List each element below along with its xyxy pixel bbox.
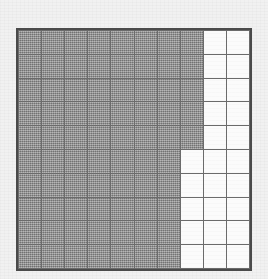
grid-cell	[42, 55, 64, 78]
grid-cell	[181, 150, 203, 173]
grid-cell	[227, 126, 249, 149]
grid-cell	[158, 174, 180, 197]
grid-cell	[111, 198, 133, 221]
grid-cell	[158, 221, 180, 244]
grid-cell	[19, 198, 41, 221]
grid-cell	[204, 150, 226, 173]
grid-cell	[204, 126, 226, 149]
grid-cell	[88, 221, 110, 244]
grid-cell	[204, 221, 226, 244]
grid-cell	[65, 221, 87, 244]
grid-cell	[158, 150, 180, 173]
grid-cell	[181, 174, 203, 197]
grid-cell	[42, 150, 64, 173]
fraction-grid-figure	[16, 28, 252, 271]
grid-cell	[204, 174, 226, 197]
grid-cell	[42, 126, 64, 149]
grid-cell	[181, 55, 203, 78]
grid-cell	[19, 126, 41, 149]
grid-cell	[88, 102, 110, 125]
grid-cell	[135, 198, 157, 221]
grid-cell	[42, 102, 64, 125]
grid-cell	[158, 55, 180, 78]
grid-cell	[135, 102, 157, 125]
grid-cell	[42, 221, 64, 244]
grid-cell	[158, 31, 180, 54]
grid-cell	[227, 79, 249, 102]
grid-cell	[42, 245, 64, 268]
grid-cell	[65, 102, 87, 125]
grid-cell	[181, 102, 203, 125]
grid-cell	[65, 31, 87, 54]
grid-cell	[181, 79, 203, 102]
grid-cell	[204, 31, 226, 54]
grid-cell	[19, 221, 41, 244]
grid-cell	[65, 55, 87, 78]
grid-cell	[111, 126, 133, 149]
grid-cell	[88, 174, 110, 197]
grid-cell	[111, 102, 133, 125]
grid-cell	[111, 31, 133, 54]
grid-cell	[135, 55, 157, 78]
grid-cell	[135, 150, 157, 173]
grid-cell	[111, 79, 133, 102]
grid-cell	[204, 79, 226, 102]
grid-cell	[158, 198, 180, 221]
grid-cell	[65, 198, 87, 221]
grid-cell	[135, 245, 157, 268]
grid-cell	[135, 126, 157, 149]
grid-cell	[227, 198, 249, 221]
grid-cell	[135, 174, 157, 197]
grid-cell	[65, 174, 87, 197]
grid-cell	[65, 126, 87, 149]
grid-cell	[88, 126, 110, 149]
grid-cell	[181, 31, 203, 54]
grid-cell	[65, 150, 87, 173]
fraction-grid	[16, 28, 252, 271]
grid-cell	[227, 245, 249, 268]
grid-cell	[204, 245, 226, 268]
grid-cell	[227, 221, 249, 244]
grid-cell	[158, 245, 180, 268]
grid-cell	[135, 31, 157, 54]
grid-cell	[227, 150, 249, 173]
grid-cell	[227, 174, 249, 197]
grid-cell	[42, 198, 64, 221]
grid-cell	[19, 150, 41, 173]
grid-cell	[19, 55, 41, 78]
grid-cell	[181, 221, 203, 244]
grid-cell	[42, 174, 64, 197]
grid-cell	[204, 55, 226, 78]
grid-cell	[111, 150, 133, 173]
grid-cell	[181, 126, 203, 149]
grid-cell	[227, 55, 249, 78]
grid-cell	[19, 31, 41, 54]
grid-cell	[19, 174, 41, 197]
grid-cell	[204, 198, 226, 221]
grid-cell	[181, 198, 203, 221]
grid-cell	[65, 79, 87, 102]
grid-cell	[19, 79, 41, 102]
grid-cell	[111, 55, 133, 78]
grid-cell	[111, 245, 133, 268]
grid-cell	[158, 126, 180, 149]
grid-cell	[158, 79, 180, 102]
grid-cell	[135, 221, 157, 244]
grid-cell	[88, 79, 110, 102]
grid-cell	[227, 31, 249, 54]
grid-cell	[88, 55, 110, 78]
grid-cell	[135, 79, 157, 102]
grid-cell	[158, 102, 180, 125]
grid-cell	[42, 31, 64, 54]
grid-cell	[111, 221, 133, 244]
grid-cell	[88, 245, 110, 268]
grid-cell	[227, 102, 249, 125]
grid-cell	[19, 245, 41, 268]
grid-cell	[42, 79, 64, 102]
grid-cell	[65, 245, 87, 268]
grid-cell	[88, 31, 110, 54]
grid-cell	[181, 245, 203, 268]
grid-cell	[19, 102, 41, 125]
grid-cell	[204, 102, 226, 125]
grid-cell	[111, 174, 133, 197]
